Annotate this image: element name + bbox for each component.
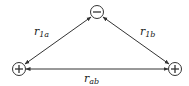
label-r1b: r1b <box>140 25 155 39</box>
positive-charge-node-b <box>169 63 182 76</box>
label-r1a: r1a <box>34 25 49 39</box>
charge-triangle-diagram: r1a r1b rab <box>0 0 189 86</box>
positive-charge-node-a <box>13 63 26 76</box>
negative-charge-node <box>91 6 104 19</box>
edge-r1b-arrow <box>103 17 169 64</box>
label-rab: rab <box>84 72 99 86</box>
